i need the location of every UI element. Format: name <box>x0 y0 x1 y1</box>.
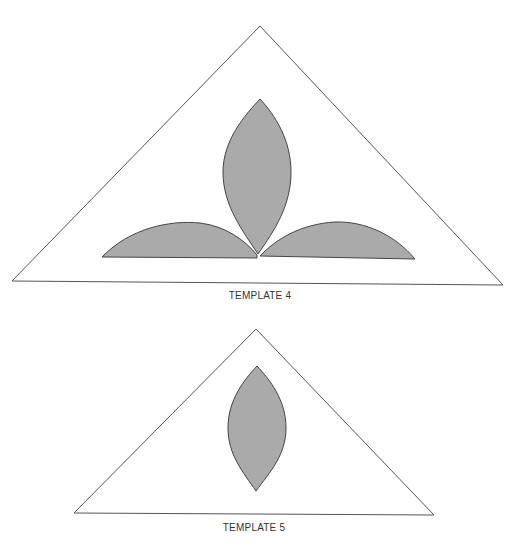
template-4-center-leaf <box>223 99 291 254</box>
templates-canvas <box>0 0 526 550</box>
template-5 <box>74 329 434 515</box>
template-4-left-leaf <box>102 222 257 258</box>
template-5-label: TEMPLATE 5 <box>223 522 285 533</box>
template-5-center-leaf <box>228 366 286 491</box>
template-4-label: TEMPLATE 4 <box>229 290 291 301</box>
template-4 <box>12 26 503 285</box>
template-4-right-leaf <box>260 222 415 259</box>
